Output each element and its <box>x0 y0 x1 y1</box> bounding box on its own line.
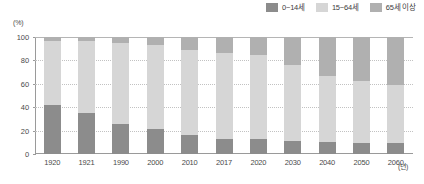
legend-swatch-15-64 <box>316 3 328 12</box>
x-tick-label-1990: 1990 <box>113 158 129 167</box>
stacked-bar-1920[interactable] <box>44 37 61 154</box>
x-tick-label-2000: 2000 <box>147 158 163 167</box>
stacked-bar-2000[interactable] <box>147 37 164 154</box>
y-axis-tick-labels: 020406080100 <box>0 37 33 154</box>
population-composition-chart: 0~14세 15~64세 65세 이상 (%) 020406080100 192… <box>0 0 424 184</box>
y-tick-label-20: 20 <box>21 126 29 135</box>
x-tick-label-2017: 2017 <box>216 158 232 167</box>
stacked-bar-2020[interactable] <box>250 37 267 154</box>
x-tick-label-2030: 2030 <box>285 158 301 167</box>
bar-column[interactable] <box>353 37 370 154</box>
bar-segment <box>147 129 164 154</box>
bar-segment <box>387 37 404 85</box>
bar-segment <box>284 65 301 141</box>
x-tick-label-2050: 2050 <box>354 158 370 167</box>
y-tick-label-0: 0 <box>25 150 29 159</box>
bar-column[interactable] <box>78 37 95 154</box>
bar-segment <box>319 76 336 143</box>
bar-segment <box>250 37 267 55</box>
x-tick-label-2010: 2010 <box>182 158 198 167</box>
bar-segment <box>284 141 301 154</box>
stacked-bar-2040[interactable] <box>319 37 336 154</box>
x-tick-label-1921: 1921 <box>79 158 95 167</box>
stacked-bar-2050[interactable] <box>353 37 370 154</box>
bar-segment <box>216 37 233 53</box>
legend-item-15-64[interactable]: 15~64세 <box>316 3 359 12</box>
bar-column[interactable] <box>112 37 129 154</box>
bar-segment <box>387 85 404 144</box>
stacked-bar-2060[interactable] <box>387 37 404 154</box>
y-tick-label-60: 60 <box>21 79 29 88</box>
y-axis-unit-label: (%) <box>13 19 23 26</box>
bar-segment <box>387 143 404 154</box>
bar-column[interactable] <box>181 37 198 154</box>
legend-item-65-plus[interactable]: 65세 이상 <box>370 3 416 12</box>
bar-column[interactable] <box>44 37 61 154</box>
bar-segment <box>78 41 95 114</box>
bar-segment <box>319 142 336 154</box>
bar-segment <box>353 143 370 154</box>
stacked-bar-1921[interactable] <box>78 37 95 154</box>
x-axis-tick-labels: 1920192119902000201020172020203020402050… <box>35 158 413 172</box>
stacked-bar-2030[interactable] <box>284 37 301 154</box>
bar-segment <box>250 139 267 154</box>
bar-segment <box>147 45 164 129</box>
legend-label-15-64: 15~64세 <box>332 3 359 12</box>
bar-segment <box>181 37 198 50</box>
bar-segment <box>319 37 336 76</box>
x-axis-unit-label: (년) <box>398 161 408 171</box>
legend-item-0-14[interactable]: 0~14세 <box>266 3 305 12</box>
bar-segment <box>78 113 95 154</box>
bar-segment <box>112 124 129 154</box>
legend-label-65-plus: 65세 이상 <box>386 3 416 12</box>
bar-series-container <box>35 37 413 154</box>
bar-segment <box>353 37 370 81</box>
bar-segment <box>112 43 129 124</box>
bar-segment <box>181 135 198 154</box>
stacked-bar-2017[interactable] <box>216 37 233 154</box>
bar-segment <box>44 105 61 154</box>
y-tick-label-100: 100 <box>17 33 29 42</box>
bar-segment <box>353 81 370 143</box>
y-tick-label-80: 80 <box>21 56 29 65</box>
legend-swatch-0-14 <box>266 3 278 12</box>
legend-swatch-65-plus <box>370 3 382 12</box>
y-tick-label-40: 40 <box>21 103 29 112</box>
bar-column[interactable] <box>250 37 267 154</box>
x-tick-label-1920: 1920 <box>44 158 60 167</box>
bar-column[interactable] <box>284 37 301 154</box>
y-tick-mark-0 <box>33 154 36 155</box>
stacked-bar-1990[interactable] <box>112 37 129 154</box>
bar-column[interactable] <box>147 37 164 154</box>
bar-segment <box>250 55 267 139</box>
bar-segment <box>181 50 198 135</box>
x-tick-label-2020: 2020 <box>250 158 266 167</box>
bar-segment <box>284 37 301 65</box>
x-tick-label-2040: 2040 <box>319 158 335 167</box>
stacked-bar-2010[interactable] <box>181 37 198 154</box>
chart-legend: 0~14세 15~64세 65세 이상 <box>266 3 416 12</box>
bar-segment <box>147 37 164 45</box>
bar-column[interactable] <box>216 37 233 154</box>
plot-area <box>35 37 413 154</box>
bar-segment <box>216 139 233 154</box>
legend-label-0-14: 0~14세 <box>282 3 305 12</box>
bar-column[interactable] <box>387 37 404 154</box>
bar-segment <box>44 41 61 105</box>
bar-segment <box>216 53 233 138</box>
bar-column[interactable] <box>319 37 336 154</box>
